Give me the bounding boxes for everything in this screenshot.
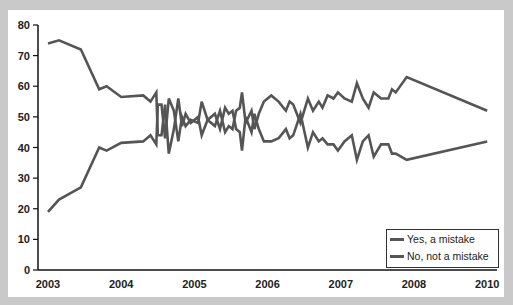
x-tick-label: 2004 [109,278,134,290]
x-tick-label: 2006 [255,278,279,290]
legend-swatch-icon [390,255,404,258]
x-tick-label: 2005 [182,278,206,290]
legend-item-no: No, not a mistake [387,248,498,264]
y-tick-label: 60 [18,80,30,92]
y-tick-label: 50 [18,111,30,123]
x-tick-label: 2008 [402,278,426,290]
x-tick-label: 2003 [36,278,60,290]
y-tick-label: 0 [24,264,30,276]
y-tick-label: 30 [18,172,30,184]
legend-label: Yes, a mistake [407,233,475,245]
y-tick-label: 20 [18,203,30,215]
x-tick-label: 2010 [475,278,499,290]
legend: Yes, a mistake No, not a mistake [386,229,499,268]
legend-item-yes: Yes, a mistake [387,231,498,247]
series-line-0 [48,77,487,212]
y-tick-label: 80 [18,19,30,31]
y-tick-label: 10 [18,233,30,245]
y-tick-label: 70 [18,50,30,62]
legend-label: No, not a mistake [407,250,489,262]
series-lines [48,40,487,212]
y-tick-label: 40 [18,142,30,154]
legend-swatch-icon [390,238,404,241]
x-tick-label: 2007 [329,278,353,290]
